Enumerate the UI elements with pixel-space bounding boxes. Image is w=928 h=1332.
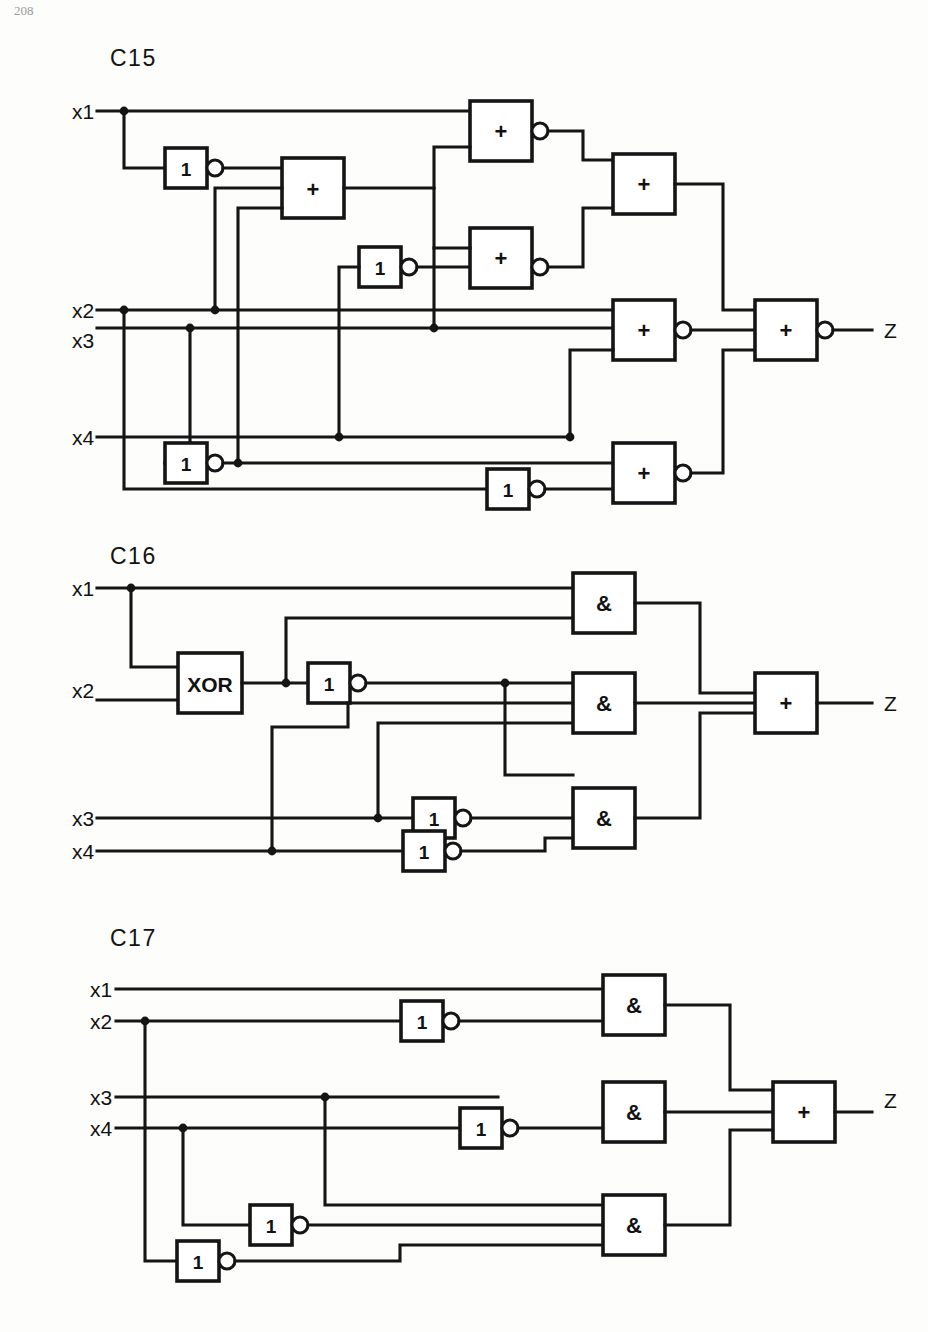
c17-gate-inv-c: 1 bbox=[250, 1205, 603, 1245]
c17-input-label-x2: x2 bbox=[90, 1010, 112, 1033]
c16-title: C16 bbox=[110, 543, 157, 569]
circuit-c15: C15 x1 x2 x3 x4 Z 1 bbox=[72, 45, 897, 509]
c15-gate-or-out: + bbox=[755, 300, 872, 360]
c15-net-x3 bbox=[97, 324, 613, 333]
c15-or-b-label: + bbox=[495, 119, 508, 144]
c17-inv-c-label: 1 bbox=[266, 1216, 277, 1237]
c15-input-label-x3: x3 bbox=[72, 329, 94, 352]
circuit-diagrams-sheet: 208 C15 x1 x2 x3 x4 Z 1 bbox=[0, 0, 928, 1332]
c16-output-label-z: Z bbox=[884, 692, 897, 715]
c17-input-label-x1: x1 bbox=[90, 978, 112, 1001]
c15-input-label-x4: x4 bbox=[72, 426, 95, 449]
c15-gate-inv-c: 1 bbox=[165, 443, 613, 483]
c16-net-x1 bbox=[97, 584, 573, 667]
c16-gate-xor-a: XOR bbox=[178, 618, 573, 713]
c15-or-out-label: + bbox=[780, 318, 793, 343]
c17-and-c-label: & bbox=[626, 1213, 642, 1238]
c17-or-out-label: + bbox=[798, 1100, 811, 1125]
c15-or-c-label: + bbox=[495, 246, 508, 271]
c15-gate-or-c: + bbox=[434, 208, 613, 288]
c15-gate-or-f: + bbox=[613, 350, 755, 503]
c16-net-x3 bbox=[97, 814, 413, 823]
c15-title: C15 bbox=[110, 45, 157, 71]
c17-inv-b-label: 1 bbox=[476, 1119, 487, 1140]
c16-gate-or-out: + bbox=[755, 673, 872, 733]
c17-gate-or-out: + bbox=[773, 1082, 872, 1142]
c16-input-label-x2: x2 bbox=[72, 679, 94, 702]
c17-inv-d-label: 1 bbox=[193, 1252, 204, 1273]
c15-gate-inv-b: 1 bbox=[339, 247, 470, 436]
c15-inv-d-label: 1 bbox=[503, 480, 514, 501]
c16-and-b-label: & bbox=[596, 691, 612, 716]
c17-net-x3 bbox=[116, 1093, 603, 1205]
c15-gate-inv-a: 1 bbox=[165, 148, 282, 188]
c17-gate-inv-b: 1 bbox=[460, 1108, 603, 1148]
c15-gate-inv-d: 1 bbox=[487, 469, 613, 509]
c16-gate-inv-c: 1 bbox=[403, 831, 573, 871]
c15-net-x2 bbox=[97, 306, 613, 315]
c17-gate-inv-a: 1 bbox=[401, 1001, 603, 1041]
c15-inv-c-label: 1 bbox=[181, 454, 192, 475]
c15-inv-b-label: 1 bbox=[375, 258, 386, 279]
c17-output-label-z: Z bbox=[884, 1089, 897, 1112]
c15-gate-or-b: + bbox=[434, 101, 613, 188]
c17-gate-and-c: & bbox=[603, 1130, 773, 1255]
c16-input-label-x4: x4 bbox=[72, 840, 95, 863]
c16-and-c-label: & bbox=[596, 806, 612, 831]
c16-inv-b-label: 1 bbox=[429, 809, 440, 830]
c15-net-x4 bbox=[97, 433, 574, 442]
circuit-c16: C16 x1 x2 x3 x4 Z XOR bbox=[72, 543, 897, 871]
c16-xor-a-label: XOR bbox=[187, 673, 233, 696]
c17-input-label-x4: x4 bbox=[90, 1117, 113, 1140]
c17-and-b-label: & bbox=[626, 1100, 642, 1125]
folio-number: 208 bbox=[14, 3, 34, 18]
c17-input-label-x3: x3 bbox=[90, 1086, 112, 1109]
page-sheet: 208 C15 x1 x2 x3 x4 Z 1 bbox=[0, 0, 928, 1332]
c16-inv-a-label: 1 bbox=[324, 674, 335, 695]
c17-and-a-label: & bbox=[626, 993, 642, 1018]
c16-input-label-x3: x3 bbox=[72, 807, 94, 830]
c17-gate-inv-d: 1 bbox=[177, 1241, 603, 1281]
c15-input-label-x1: x1 bbox=[72, 100, 94, 123]
c16-inv-c-label: 1 bbox=[419, 842, 430, 863]
c15-or-f-label: + bbox=[638, 461, 651, 486]
c15-gate-or-d: + bbox=[613, 154, 755, 310]
c17-inv-a-label: 1 bbox=[417, 1012, 428, 1033]
c15-or-e-label: + bbox=[638, 318, 651, 343]
c15-input-label-x2: x2 bbox=[72, 299, 94, 322]
c17-title: C17 bbox=[110, 925, 157, 951]
c15-inv-a-label: 1 bbox=[181, 159, 192, 180]
c16-net-x4 bbox=[97, 847, 403, 856]
c16-and-a-label: & bbox=[596, 591, 612, 616]
c16-or-out-label: + bbox=[780, 691, 793, 716]
c16-gate-and-b: & bbox=[573, 673, 755, 733]
c16-input-label-x1: x1 bbox=[72, 577, 94, 600]
circuit-c17: C17 x1 x2 x3 x4 Z 1 bbox=[90, 925, 897, 1281]
c17-gate-and-a: & bbox=[603, 975, 773, 1090]
c15-output-label-z: Z bbox=[884, 319, 897, 342]
c15-or-a-label: + bbox=[307, 177, 320, 202]
c15-gate-or-e: + bbox=[570, 300, 755, 437]
c15-or-d-label: + bbox=[638, 172, 651, 197]
